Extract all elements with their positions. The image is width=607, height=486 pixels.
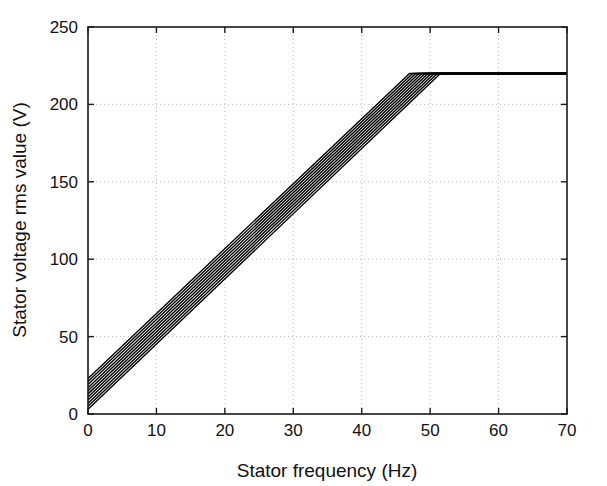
y-tick-label: 250 bbox=[50, 18, 78, 37]
x-tick-label: 30 bbox=[284, 421, 303, 440]
x-tick-label: 20 bbox=[215, 421, 234, 440]
y-tick-label: 0 bbox=[69, 405, 78, 424]
x-tick-label: 70 bbox=[558, 421, 577, 440]
chart-plot-area: 010203040506070050100150200250 Stator fr… bbox=[0, 0, 607, 486]
y-axis-label: Stator voltage rms value (V) bbox=[9, 102, 30, 337]
x-tick-label: 50 bbox=[421, 421, 440, 440]
chart-figure: 010203040506070050100150200250 Stator fr… bbox=[0, 0, 607, 486]
x-axis-label: Stator frequency (Hz) bbox=[237, 460, 418, 481]
x-tick-label: 40 bbox=[352, 421, 371, 440]
y-tick-label: 150 bbox=[50, 173, 78, 192]
x-tick-label: 10 bbox=[147, 421, 166, 440]
y-tick-label: 200 bbox=[50, 95, 78, 114]
y-tick-label: 50 bbox=[59, 328, 78, 347]
y-tick-label: 100 bbox=[50, 250, 78, 269]
x-tick-label: 0 bbox=[83, 421, 92, 440]
x-tick-label: 60 bbox=[489, 421, 508, 440]
